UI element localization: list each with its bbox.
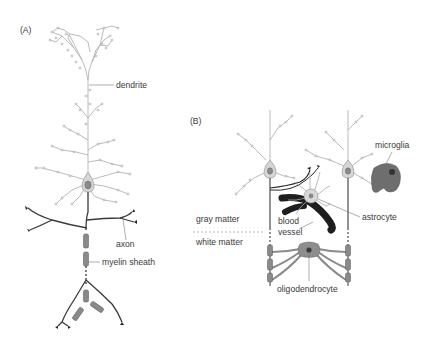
label-blood-vessel-line1: blood: [278, 216, 299, 226]
axon-leader: [123, 219, 126, 240]
label-white-matter: white matter: [195, 237, 243, 247]
neuron-nucleus: [85, 181, 91, 189]
label-astrocyte: astrocyte: [362, 212, 397, 222]
neuron-glia-diagram: (A): [0, 0, 437, 350]
microglia-leader: [386, 152, 392, 164]
label-myelin-sheath: myelin sheath: [102, 257, 155, 267]
synapse-terminal: [317, 165, 320, 168]
panel-a: (A): [20, 25, 155, 329]
label-microglia: microglia: [375, 140, 410, 150]
right-neuron: [305, 110, 373, 245]
dendritic-spines: [35, 27, 131, 205]
panel-b-label: (B): [190, 116, 202, 126]
microglia: [371, 163, 400, 192]
label-axon: axon: [116, 239, 135, 249]
label-gray-matter: gray matter: [196, 214, 240, 224]
label-blood-vessel-line2: vessel: [278, 227, 302, 237]
label-dendrite: dendrite: [116, 80, 147, 90]
panel-b: (B): [190, 110, 410, 294]
panel-a-label: (A): [20, 25, 32, 35]
left-neuron: [235, 110, 318, 245]
myelin-segments: [72, 234, 104, 321]
synapse-terminal: [307, 167, 311, 170]
label-oligodendrocyte: oligodendrocyte: [277, 284, 338, 294]
pyramidal-neuron-dendrites: [35, 26, 131, 205]
